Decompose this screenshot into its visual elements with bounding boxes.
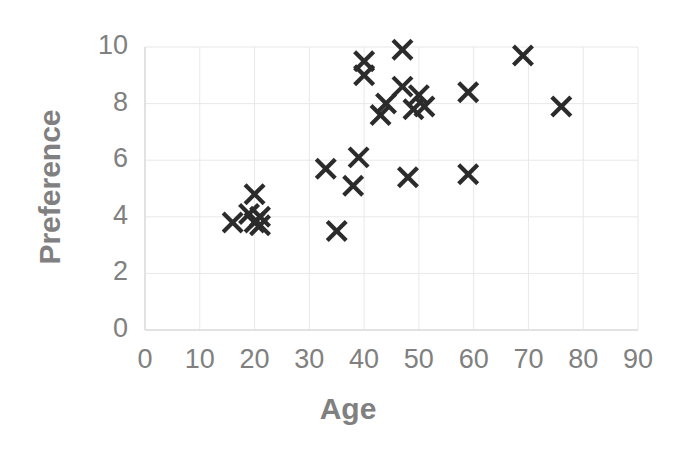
data-point-marker (513, 46, 532, 65)
x-tick-label: 80 (553, 344, 613, 375)
y-tick-label: 2 (68, 256, 128, 287)
x-tick-label: 70 (498, 344, 558, 375)
y-tick-label: 8 (68, 87, 128, 118)
x-tick-label: 50 (389, 344, 449, 375)
x-tick-label: 20 (225, 344, 285, 375)
data-point-marker (398, 168, 417, 187)
x-tick-label: 90 (608, 344, 668, 375)
x-tick-label: 0 (115, 344, 175, 375)
x-tick-label: 30 (279, 344, 339, 375)
data-point-marker (344, 176, 363, 195)
x-axis-title: Age (0, 392, 696, 426)
y-tick-label: 10 (68, 30, 128, 61)
data-point-marker (327, 221, 346, 240)
data-point-marker (459, 83, 478, 102)
x-tick-label: 40 (334, 344, 394, 375)
y-tick-label: 0 (68, 313, 128, 344)
data-point-marker (316, 159, 335, 178)
data-point-marker (349, 148, 368, 167)
data-point-marker (459, 165, 478, 184)
y-axis-title: Preference (33, 77, 67, 297)
y-tick-label: 6 (68, 143, 128, 174)
y-tick-label: 4 (68, 200, 128, 231)
plot-area-border (145, 47, 638, 330)
x-tick-label: 10 (170, 344, 230, 375)
data-markers (223, 40, 571, 240)
data-point-marker (552, 97, 571, 116)
data-point-marker (393, 40, 412, 59)
x-tick-label: 60 (444, 344, 504, 375)
scatter-chart: 0102030405060708090 0246810 Age Preferen… (0, 0, 696, 471)
gridlines (145, 47, 638, 330)
